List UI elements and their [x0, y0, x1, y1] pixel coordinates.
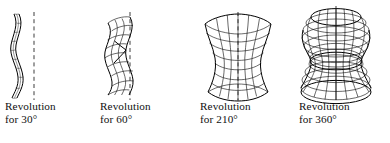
revolution-30-surface — [10, 14, 23, 98]
revolution-60-surface — [105, 17, 134, 95]
caption-line-2: for 360° — [299, 113, 350, 126]
panel-revolution-60: Revolution for 60° — [95, 0, 195, 143]
caption-revolution-360: Revolution for 360° — [299, 100, 350, 125]
panel-revolution-360: Revolution for 360° — [290, 0, 390, 143]
caption-revolution-210: Revolution for 210° — [200, 100, 251, 125]
revolution-360-artwork — [290, 0, 390, 105]
panel-revolution-30: Revolution for 30° — [0, 0, 95, 143]
caption-revolution-30: Revolution for 30° — [5, 100, 56, 125]
caption-line-1: Revolution — [299, 100, 350, 113]
caption-line-2: for 210° — [200, 113, 251, 126]
caption-line-1: Revolution — [5, 100, 56, 113]
surface-of-revolution-figure: Revolution for 30° — [0, 0, 390, 143]
revolution-30-artwork — [0, 0, 95, 105]
revolution-60-artwork — [95, 0, 195, 105]
caption-line-1: Revolution — [100, 100, 151, 113]
caption-line-2: for 30° — [5, 113, 56, 126]
caption-line-2: for 60° — [100, 113, 151, 126]
panel-revolution-210: Revolution for 210° — [195, 0, 290, 143]
caption-revolution-60: Revolution for 60° — [100, 100, 151, 125]
revolution-210-artwork — [195, 0, 290, 105]
caption-line-1: Revolution — [200, 100, 251, 113]
